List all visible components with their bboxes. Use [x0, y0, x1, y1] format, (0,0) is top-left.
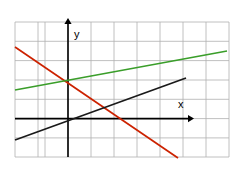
y-axis-label: y [74, 28, 80, 40]
coordinate-plane-figure: x y [0, 0, 239, 170]
x-axis-label: x [178, 98, 184, 110]
graph-canvas: x y [0, 0, 239, 170]
figure-background [0, 0, 239, 170]
